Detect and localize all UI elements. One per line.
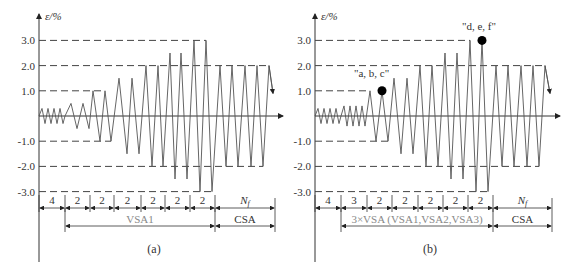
y-tick-label: 2.0 bbox=[21, 60, 35, 72]
sample-marker bbox=[378, 86, 387, 95]
segment-count-label: 4 bbox=[325, 194, 331, 206]
group-label: VSA1 bbox=[126, 213, 154, 225]
segment-count-label: 2 bbox=[99, 194, 105, 206]
segment-count-label: 2 bbox=[175, 194, 181, 206]
segment-count-label: 3 bbox=[351, 194, 357, 206]
y-tick-label: -3.0 bbox=[18, 186, 36, 198]
strain-loading-diagram: ε/%3.02.01.0-1.0-2.0-3.04222222NfVSA1CSA… bbox=[0, 0, 571, 265]
sample-marker bbox=[478, 36, 487, 45]
segment-count-label: 2 bbox=[402, 194, 408, 206]
segment-count-label: 2 bbox=[150, 194, 156, 206]
waveform-end-arrow bbox=[269, 66, 273, 94]
sample-marker-label: "d, e, f" bbox=[462, 20, 496, 32]
y-tick-label: -2.0 bbox=[294, 160, 312, 172]
segment-count-label: 2 bbox=[453, 194, 459, 206]
y-tick-label: 1.0 bbox=[21, 85, 35, 97]
segment-count-label: 4 bbox=[49, 194, 55, 206]
segment-count-label: 2 bbox=[428, 194, 434, 206]
group-label: CSA bbox=[234, 213, 255, 225]
segment-count-label: 2 bbox=[478, 194, 484, 206]
segment-count-label: 2 bbox=[377, 194, 383, 206]
sample-marker-label: "a, b, c" bbox=[354, 67, 389, 79]
segment-count-label: 2 bbox=[75, 194, 81, 206]
y-axis-label: ε/% bbox=[45, 10, 62, 22]
panel-caption: (b) bbox=[423, 242, 437, 256]
segment-count-label: 2 bbox=[125, 194, 131, 206]
y-tick-label: -3.0 bbox=[294, 186, 312, 198]
segment-count-label: Nf bbox=[239, 194, 251, 208]
waveform-end-arrow bbox=[545, 66, 550, 94]
y-tick-label: 1.0 bbox=[297, 85, 311, 97]
group-label: 3×VSA (VSA1,VSA2,VSA3) bbox=[351, 213, 483, 226]
segment-count-label: 2 bbox=[200, 194, 206, 206]
y-tick-label: -1.0 bbox=[294, 135, 312, 147]
panel-b: ε/%3.02.01.0-1.0-2.0-3.0"a, b, c""d, e, … bbox=[294, 10, 560, 262]
y-axis-label: ε/% bbox=[321, 10, 338, 22]
y-tick-label: -2.0 bbox=[18, 160, 36, 172]
y-tick-label: 2.0 bbox=[297, 60, 311, 72]
group-label: CSA bbox=[512, 213, 533, 225]
panel-a: ε/%3.02.01.0-1.0-2.0-3.04222222NfVSA1CSA… bbox=[18, 10, 283, 262]
panel-caption: (a) bbox=[147, 242, 160, 256]
y-tick-label: 3.0 bbox=[21, 34, 35, 46]
y-tick-label: -1.0 bbox=[18, 135, 36, 147]
y-tick-label: 3.0 bbox=[297, 34, 311, 46]
segment-count-label: Nf bbox=[517, 194, 529, 208]
